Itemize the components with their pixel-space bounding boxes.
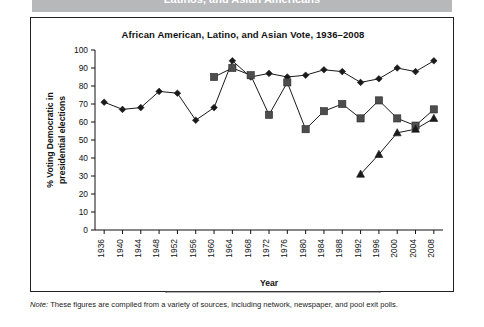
data-point-blacks-1984 — [321, 67, 328, 74]
page-banner: Latinos, and Asian Americans — [32, 0, 452, 12]
data-point-blacks-2000 — [394, 65, 401, 72]
note-prefix: Note: — [30, 300, 48, 309]
y-tick-label: 20 — [79, 189, 89, 199]
x-tick-label: 1940 — [115, 239, 125, 258]
data-point-blacks-2004 — [412, 68, 419, 75]
x-tick-label: 1972 — [261, 239, 271, 258]
banner-title: Latinos, and Asian Americans — [32, 0, 452, 5]
x-tick-label: 1948 — [151, 239, 161, 258]
data-point-latinos-1984 — [320, 108, 327, 115]
y-tick-label: 70 — [79, 99, 89, 109]
data-point-latinos-1980 — [302, 126, 309, 133]
series-line-asians — [361, 118, 434, 174]
data-point-blacks-1992 — [357, 79, 364, 86]
data-point-blacks-1952 — [174, 90, 181, 97]
data-point-latinos-1972 — [265, 111, 272, 118]
y-tick-label: 80 — [79, 81, 89, 91]
y-axis-title-line1: % Voting Democratic in — [45, 92, 55, 187]
line-chart: 0102030405060708090100193619401944194819… — [31, 18, 455, 293]
data-point-blacks-1956 — [192, 117, 199, 124]
x-tick-label: 1956 — [188, 239, 198, 258]
x-tick-label: 2004 — [408, 239, 418, 258]
x-tick-label: 1964 — [224, 239, 234, 258]
data-point-asians-2008 — [430, 114, 438, 121]
x-tick-label: 1988 — [334, 239, 344, 258]
note-text: These figures are compiled from a variet… — [48, 300, 398, 309]
y-tick-label: 50 — [79, 135, 89, 145]
x-tick-label: 1992 — [353, 239, 363, 258]
y-tick-label: 40 — [79, 153, 89, 163]
data-point-blacks-1996 — [376, 76, 383, 83]
x-tick-label: 1984 — [316, 239, 326, 258]
data-point-latinos-1960 — [210, 73, 217, 80]
y-axis-title-line2: presidential elections — [57, 96, 67, 184]
data-point-latinos-1964 — [229, 64, 236, 71]
x-tick-label: 1944 — [133, 239, 143, 258]
y-tick-label: 30 — [79, 171, 89, 181]
x-tick-label: 1996 — [371, 239, 381, 258]
data-point-blacks-1940 — [119, 106, 126, 113]
data-point-latinos-1968 — [247, 72, 254, 79]
data-point-latinos-1988 — [339, 100, 346, 107]
data-point-latinos-1996 — [375, 97, 382, 104]
x-tick-label: 2000 — [389, 239, 399, 258]
y-tick-label: 90 — [79, 63, 89, 73]
data-point-latinos-1992 — [357, 115, 364, 122]
data-point-blacks-2008 — [431, 58, 438, 65]
x-tick-label: 1936 — [96, 239, 106, 258]
figure-page: Latinos, and Asian Americans African Ame… — [0, 0, 484, 327]
chart-canvas: 0102030405060708090100193619401944194819… — [31, 18, 455, 293]
y-tick-label: 60 — [79, 117, 89, 127]
y-tick-label: 100 — [74, 45, 88, 55]
figure-box: African American, Latino, and Asian Vote… — [30, 17, 454, 292]
x-tick-label: 2008 — [426, 239, 436, 258]
x-axis-title: Year — [260, 278, 279, 288]
data-point-blacks-1980 — [302, 72, 309, 79]
x-tick-label: 1980 — [298, 239, 308, 258]
data-point-blacks-1960 — [211, 104, 218, 111]
data-point-latinos-1976 — [284, 79, 291, 86]
chart-legend — [166, 292, 380, 293]
x-tick-label: 1976 — [279, 239, 289, 258]
data-point-latinos-2008 — [430, 106, 437, 113]
data-point-blacks-1936 — [101, 99, 108, 106]
data-point-blacks-1972 — [266, 70, 273, 77]
x-tick-label: 1960 — [206, 239, 216, 258]
y-tick-label: 0 — [83, 225, 88, 235]
data-point-blacks-1988 — [339, 68, 346, 75]
data-point-latinos-2000 — [394, 115, 401, 122]
x-tick-label: 1968 — [243, 239, 253, 258]
x-tick-label: 1952 — [169, 239, 179, 258]
y-tick-label: 10 — [79, 207, 89, 217]
figure-note: Note: These figures are compiled from a … — [30, 300, 454, 309]
